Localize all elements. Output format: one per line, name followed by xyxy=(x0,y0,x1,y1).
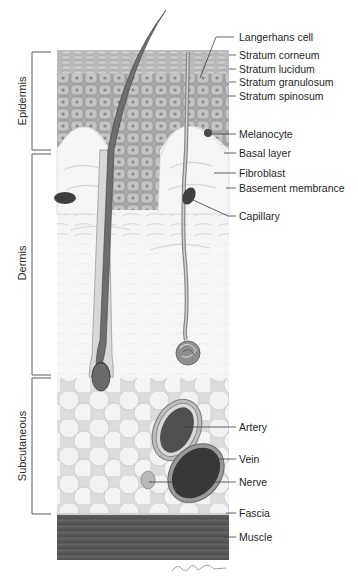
sweat-gland xyxy=(176,341,200,365)
region-label-subcutaneous: Subcutaneous xyxy=(16,396,28,496)
capillary-left xyxy=(54,192,76,204)
label-fibroblast: Fibroblast xyxy=(239,167,285,179)
nerve xyxy=(141,471,155,489)
label-fascia: Fascia xyxy=(239,507,270,519)
label-capillary: Capillary xyxy=(239,210,280,222)
label-muscle: Muscle xyxy=(239,531,272,543)
label-stratum-lucidum: Stratum lucidum xyxy=(239,63,315,75)
label-nerve: Nerve xyxy=(239,476,267,488)
label-stratum-granulosum: Stratum granulosum xyxy=(239,76,334,88)
region-brackets xyxy=(32,52,51,514)
muscle-region xyxy=(57,515,229,560)
label-langerhans-cell: Langerhans cell xyxy=(239,31,313,43)
skin-diagram: Epidermis Dermis Subcutaneous Langerhans… xyxy=(0,0,358,579)
label-basement-membrane: Basement membrance xyxy=(239,182,345,194)
region-label-dermis: Dermis xyxy=(16,233,28,293)
label-stratum-spinosum: Stratum spinosum xyxy=(239,90,324,102)
melanocyte-cell xyxy=(204,129,212,137)
artist-signature xyxy=(170,561,230,575)
label-stratum-corneum: Stratum corneum xyxy=(239,49,320,61)
label-melanocyte: Melanocyte xyxy=(239,128,293,140)
label-vein: Vein xyxy=(239,453,259,465)
label-artery: Artery xyxy=(239,421,267,433)
label-basal-layer: Basal layer xyxy=(239,147,291,159)
region-label-epidermis: Epidermis xyxy=(16,71,28,131)
